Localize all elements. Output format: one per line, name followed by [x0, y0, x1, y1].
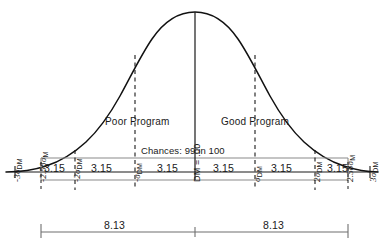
tick-sub-minus-1sigma: DM [136, 163, 143, 174]
tick-sub-plus-1sigma: DM [256, 166, 263, 177]
segment-value-5: 3.15 [271, 163, 292, 174]
segment-value-3: 3.15 [157, 163, 178, 174]
axis-tick-label-minus-2sigma: -2σDM [73, 158, 82, 182]
axis-tick-label-minus-3sigma: -3σDM [13, 158, 22, 182]
span-value-left: 8.13 [104, 220, 125, 231]
poor-program-label: Poor Program [105, 117, 170, 127]
tick-text-plus-1sigma: σ [252, 177, 262, 182]
segment-value-4: 3.15 [213, 163, 234, 174]
tick-sub-plus-2sigma: DM [316, 161, 323, 172]
normal-curve-figure: Poor Program Good Program Chances: 99 in… [0, 0, 384, 238]
axis-tick-label-plus-3sigma: 3σDM [369, 161, 378, 182]
tick-text-minus-2sigma: -2σ [72, 169, 82, 182]
axis-tick-label-center: DM = .00 [193, 144, 202, 182]
tick-sub-minus-2sigma: DM [76, 158, 83, 169]
axis-tick-label-plus-2sigma: 2σDM [313, 161, 322, 182]
chances-note: Chances: 99 in 100 [141, 146, 225, 156]
axis-tick-label-plus-258sigma: 2.58σM [346, 155, 355, 182]
good-program-label: Good Program [221, 117, 289, 127]
tick-text-minus-3sigma: -3σ [12, 169, 22, 182]
tick-text-plus-258sigma: 2.58σ [345, 161, 355, 182]
tick-text-plus-2sigma: 2σ [312, 173, 322, 182]
axis-tick-label-plus-1sigma: σDM [253, 166, 262, 182]
span-value-right: 8.13 [263, 220, 284, 231]
tick-sub-plus-258sigma: M [349, 155, 356, 161]
tick-sub-minus-3sigma: DM [16, 158, 23, 169]
figure-canvas [0, 0, 384, 238]
axis-tick-label-minus-258sigma: -2.58σM [39, 152, 48, 182]
tick-sub-minus-258sigma: M [42, 152, 49, 158]
tick-sub-plus-3sigma: DM [372, 161, 379, 172]
tick-text-minus-258sigma: -2.58σ [38, 158, 48, 182]
tick-text-minus-1sigma: -σ [132, 174, 142, 182]
segment-value-2: 3.15 [91, 163, 112, 174]
tick-text-plus-3sigma: 3σ [368, 173, 378, 182]
axis-tick-label-minus-1sigma: -σDM [133, 163, 142, 182]
